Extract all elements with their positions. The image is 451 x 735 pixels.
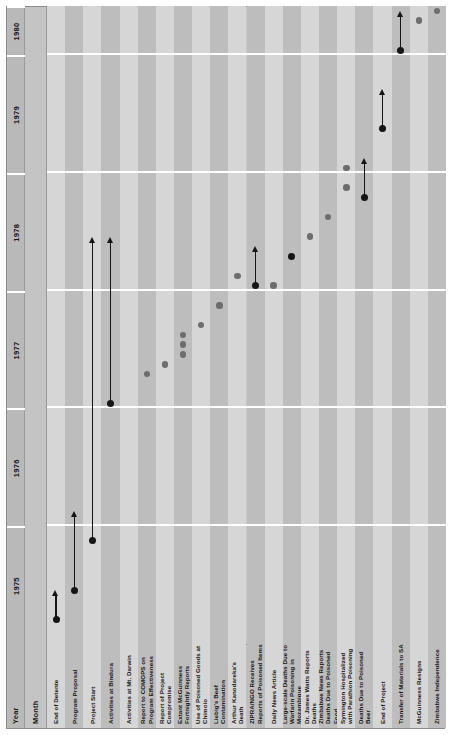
- duration-arrow-head: [361, 158, 367, 164]
- event-point-marker: [416, 17, 423, 24]
- duration-arrow-line: [110, 243, 111, 404]
- timeline-row: [428, 6, 446, 644]
- event-start-marker: [397, 47, 404, 54]
- event-point-marker: [180, 341, 187, 348]
- year-divider: [47, 53, 446, 55]
- duration-arrow-line: [382, 95, 383, 128]
- row-label: End of Detente: [47, 644, 65, 728]
- year-divider: [47, 171, 446, 173]
- row-label: Large-scale Deaths Due to Warfarin Poiso…: [283, 644, 301, 728]
- event-point-marker: [343, 184, 350, 191]
- event-point-marker: [162, 361, 169, 368]
- duration-arrow-line: [400, 17, 401, 50]
- year-cell-1978: 1978: [7, 173, 25, 291]
- month-header-row: Month JFMAMJJASONDJFMAMJJASONDJFMAMJJASO…: [25, 7, 47, 728]
- month-header-label: Month: [25, 701, 46, 725]
- row-label: Program Proposal: [65, 644, 83, 728]
- row-label: Deaths Due to Poisoned Beer: [355, 644, 373, 728]
- row-label: Symington Hospitalized with Parathion Po…: [337, 644, 355, 728]
- event-point-marker: [180, 351, 187, 358]
- screenshot-root: Year 197519761977197819791980 Month JFMA…: [0, 0, 451, 735]
- timeline-row: [410, 6, 428, 644]
- event-point-marker: [343, 165, 350, 172]
- year-divider: [47, 524, 446, 526]
- row-label: Report to COMOPS on Program Effectivenes…: [138, 644, 156, 728]
- year-cell-1980: 1980: [7, 6, 25, 55]
- row-label: Transfer of Materials to SA: [392, 644, 410, 728]
- timeline-row: [265, 6, 283, 644]
- year-cell-1976: 1976: [7, 408, 25, 526]
- event-start-marker: [107, 400, 114, 407]
- year-cell-1975: 1975: [7, 526, 25, 644]
- row-label: Use of Poisoned Goods at Chimoio: [192, 644, 210, 728]
- duration-arrow-head: [397, 11, 403, 17]
- timeline-row: [283, 6, 301, 644]
- year-header-label: Year: [7, 707, 24, 724]
- timeline-row: [337, 6, 355, 644]
- row-label: McGuinness Resigns: [410, 644, 428, 728]
- row-label: Arthur Kanodareka's Death: [228, 644, 246, 728]
- timeline-row: [120, 6, 138, 644]
- event-point-marker: [270, 283, 277, 290]
- row-label: Project Start: [83, 644, 101, 728]
- row-label: Zimbabwe News Reports Deaths Due to Pois…: [319, 644, 337, 728]
- timeline-row: [301, 6, 319, 644]
- event-start-marker: [361, 194, 368, 201]
- timeline-row: [247, 6, 265, 644]
- timeline-row: [228, 6, 246, 644]
- row-label: Zimbabwe Independence: [428, 644, 446, 728]
- rotated-chart-wrapper: Year 197519761977197819791980 Month JFMA…: [0, 0, 451, 735]
- row-label: ZIPRA/NGO Receives Reports of Poisoned I…: [247, 644, 265, 728]
- duration-arrow-line: [92, 243, 93, 541]
- row-label: Liebig's Beef Contamination: [210, 644, 228, 728]
- timeline-row: [210, 6, 228, 644]
- timeline-row: [392, 6, 410, 644]
- timeline-row: [47, 6, 65, 644]
- row-label: End of Project: [373, 644, 391, 728]
- row-label: Extant McGuinness Fortnightly Reports: [174, 644, 192, 728]
- timeline-row: [174, 6, 192, 644]
- timeline-row: [319, 6, 337, 644]
- duration-arrow-head: [89, 237, 95, 243]
- timeline-row: [156, 6, 174, 644]
- row-label: Activities at Bindura: [101, 644, 119, 728]
- duration-arrow-line: [364, 164, 365, 197]
- timeline-row: [355, 6, 373, 644]
- year-header-row: Year 197519761977197819791980: [7, 7, 25, 728]
- event-start-marker: [53, 616, 60, 623]
- duration-arrow-head: [71, 512, 77, 518]
- year-divider: [47, 406, 446, 408]
- year-divider: [47, 289, 446, 291]
- event-point-marker: [216, 302, 223, 309]
- timeline-chart: Year 197519761977197819791980 Month JFMA…: [6, 6, 445, 729]
- year-cell-1977: 1977: [7, 291, 25, 409]
- duration-arrow-head: [379, 89, 385, 95]
- timeline-row: [138, 6, 156, 644]
- row-label-column: End of DetenteProgram ProposalProject St…: [47, 644, 446, 728]
- event-point-marker: [234, 273, 241, 280]
- year-cell-1979: 1979: [7, 55, 25, 173]
- duration-arrow-head: [107, 237, 113, 243]
- plot-area: [47, 6, 446, 644]
- duration-arrow-line: [74, 518, 75, 591]
- duration-arrow-head: [52, 590, 58, 596]
- event-start-marker: [71, 587, 78, 594]
- event-point-marker: [307, 233, 314, 240]
- row-label: Report of Project Compromise: [156, 644, 174, 728]
- duration-arrow-line: [255, 253, 256, 286]
- duration-arrow-head: [252, 246, 258, 252]
- row-label: Activities at Mt. Darwin: [120, 644, 138, 728]
